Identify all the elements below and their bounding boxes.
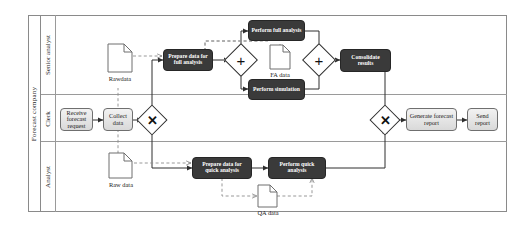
data-object-label-raw-data: Raw data bbox=[99, 181, 143, 188]
data-object-qa-data[interactable] bbox=[257, 184, 278, 208]
data-object-fa-data[interactable] bbox=[269, 44, 291, 70]
gateway-symbol: + bbox=[229, 48, 253, 72]
lane-label-senior-analyst: Senior analyst bbox=[41, 15, 56, 95]
data-object-label-qa-data: QA data bbox=[246, 209, 290, 216]
task-perform-simulation[interactable]: Perform simulation bbox=[248, 79, 305, 100]
bpmn-diagram-canvas: Forecast company Senior analyst Clerk An… bbox=[0, 0, 515, 227]
data-object-label-rawdata: Rawdata bbox=[98, 75, 142, 82]
task-label: Perform simulation bbox=[253, 87, 300, 93]
gateway-symbol: ✕ bbox=[141, 109, 163, 131]
gateway-parallel-join[interactable]: + bbox=[307, 48, 331, 72]
data-object-rawdata[interactable] bbox=[107, 43, 133, 73]
task-prepare-data-full[interactable]: Prepare data for full analysis bbox=[163, 49, 213, 71]
gateway-exclusive-split[interactable]: ✕ bbox=[141, 109, 163, 131]
gateway-exclusive-join[interactable]: ✕ bbox=[374, 109, 396, 131]
task-label: Generate forecast report bbox=[409, 113, 454, 126]
gateway-symbol: + bbox=[307, 48, 331, 72]
task-generate-forecast-report[interactable]: Generate forecast report bbox=[406, 108, 457, 131]
task-consolidate-results[interactable]: Consolidate results bbox=[340, 49, 391, 72]
data-object-label-fa-data: FA data bbox=[258, 71, 302, 78]
pool-name-text: Forecast company bbox=[30, 86, 38, 140]
task-label: Consolidate results bbox=[343, 55, 388, 67]
gateway-parallel-split[interactable]: + bbox=[229, 48, 253, 72]
lane-label-clerk: Clerk bbox=[41, 95, 56, 142]
task-label: Receive forecast request bbox=[63, 110, 90, 130]
task-receive-forecast-request[interactable]: Receive forecast request bbox=[60, 108, 93, 131]
pool-label-forecast-company: Forecast company bbox=[28, 15, 41, 212]
data-object-raw-data[interactable] bbox=[108, 152, 133, 179]
lane-name-clerk: Clerk bbox=[44, 111, 52, 127]
gateway-symbol: ✕ bbox=[374, 109, 396, 131]
task-prepare-data-quick[interactable]: Prepare data for quick analysis bbox=[192, 157, 252, 179]
task-label: Send report bbox=[470, 113, 495, 126]
lane-label-analyst: Analyst bbox=[41, 142, 56, 212]
lane-name-analyst: Analyst bbox=[44, 166, 52, 188]
task-send-report[interactable]: Send report bbox=[467, 108, 498, 131]
lane-name-senior-analyst: Senior analyst bbox=[44, 35, 52, 75]
task-perform-quick-analysis[interactable]: Perform quick analysis bbox=[268, 157, 326, 179]
task-label: Prepare data for quick analysis bbox=[195, 162, 249, 174]
task-label: Collect data bbox=[106, 113, 130, 126]
task-label: Perform full analysis bbox=[251, 28, 301, 34]
task-label: Prepare data for full analysis bbox=[166, 54, 210, 66]
task-label: Perform quick analysis bbox=[271, 162, 323, 174]
task-perform-full-analysis[interactable]: Perform full analysis bbox=[248, 20, 305, 41]
task-collect-data[interactable]: Collect data bbox=[103, 108, 133, 131]
